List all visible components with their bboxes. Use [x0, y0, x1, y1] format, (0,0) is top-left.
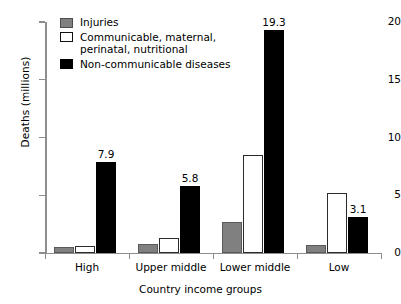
bar-value-label: 3.1 [338, 203, 378, 215]
legend-label: Communicable, maternal, perinatal, nutri… [80, 31, 216, 56]
x-tick [129, 253, 130, 259]
legend-label: Injuries [80, 16, 119, 28]
bar-lower-middle-series-0 [222, 222, 242, 253]
x-tick [381, 253, 382, 259]
x-tick-label-high: High [45, 261, 129, 273]
x-tick [297, 253, 298, 259]
bar-value-label: 19.3 [254, 16, 294, 28]
bar-chart: Deaths (millions) Country income groups … [0, 0, 401, 304]
bar-upper-middle-series-0 [138, 244, 158, 253]
bar-high-series-2 [96, 162, 116, 253]
bar-low-series-1 [327, 193, 347, 253]
x-tick-label-lower-middle: Lower middle [213, 261, 297, 273]
bar-high-series-0 [54, 247, 74, 253]
chart-legend: InjuriesCommunicable, maternal, perinata… [60, 16, 231, 72]
legend-item-noncommunicable: Non-communicable diseases [60, 58, 231, 70]
legend-item-communicable: Communicable, maternal, perinatal, nutri… [60, 31, 231, 56]
bar-value-label: 5.8 [170, 172, 210, 184]
x-axis-title: Country income groups [0, 283, 401, 295]
legend-swatch-communicable [60, 32, 73, 42]
y-axis-title: Deaths (millions) [19, 32, 31, 172]
legend-swatch-noncommunicable [60, 59, 73, 69]
legend-swatch-injuries [60, 18, 73, 28]
legend-label: Non-communicable diseases [80, 58, 231, 70]
bar-value-label: 7.9 [86, 148, 126, 160]
x-tick [45, 253, 46, 259]
bar-lower-middle-series-2 [264, 30, 284, 253]
bar-high-series-1 [75, 246, 95, 253]
x-tick [213, 253, 214, 259]
bar-low-series-0 [306, 245, 326, 253]
bar-upper-middle-series-1 [159, 238, 179, 253]
bar-low-series-2 [348, 217, 368, 253]
legend-item-injuries: Injuries [60, 16, 231, 28]
bar-upper-middle-series-2 [180, 186, 200, 253]
bar-lower-middle-series-1 [243, 155, 263, 253]
x-tick-label-low: Low [297, 261, 381, 273]
x-tick-label-upper-middle: Upper middle [129, 261, 213, 273]
